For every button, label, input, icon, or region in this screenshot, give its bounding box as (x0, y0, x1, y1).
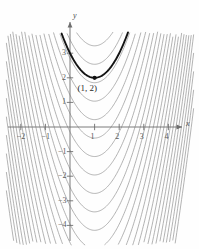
vertex-point-layer (93, 76, 97, 80)
x-tick-label-2: 1 (91, 133, 95, 141)
vertex-annotation-label: (1, 2) (78, 84, 98, 93)
x-tick-label-3: 2 (115, 133, 119, 141)
highlighted-parabola (62, 32, 128, 77)
y-tick-label-3: −1 (58, 148, 67, 156)
x-tick-label-1: −1 (41, 133, 50, 141)
y-tick-label-2: 1 (62, 98, 66, 106)
x-tick-label-0: −2 (17, 133, 26, 141)
parabola-curve-24 (6, 90, 193, 242)
y-tick-label-4: −2 (58, 172, 67, 180)
y-tick-label-5: −3 (58, 197, 67, 205)
y-axis-arrowhead (68, 22, 73, 28)
x-axis-label: x (186, 120, 190, 128)
x-tick-label-4: 3 (140, 133, 144, 141)
y-tick-label-6: −4 (58, 221, 67, 229)
parabola-family-figure: −2−11234321−1−2−3−4 x y (1, 2) (0, 0, 199, 249)
parabola-curve-18 (6, 35, 186, 244)
x-tick-label-5: 4 (164, 133, 168, 141)
plot-canvas (0, 0, 199, 249)
parabola-curve-1 (67, 33, 122, 64)
y-axis-label: y (73, 12, 77, 20)
highlighted-parabola-layer (62, 32, 128, 77)
parabola-curve-7 (36, 33, 154, 175)
parabola-curve-9 (29, 34, 161, 212)
vertex-point (93, 76, 97, 80)
y-tick-label-0: 3 (62, 49, 66, 57)
parabola-curve-0 (77, 32, 113, 45)
y-tick-label-1: 2 (62, 74, 66, 82)
